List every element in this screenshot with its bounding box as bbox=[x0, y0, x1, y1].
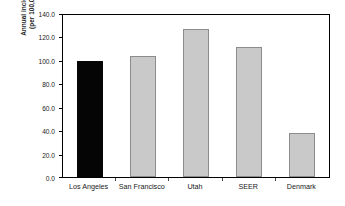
y-axis-tick-label: 60.0 bbox=[22, 104, 55, 111]
bar-chart-figure: Annual incidence (per 100,000) 0.020.040… bbox=[0, 0, 345, 206]
x-axis-tick-mark bbox=[168, 178, 169, 181]
bar-los-angeles[interactable] bbox=[77, 61, 103, 177]
y-axis-tick-labels: 0.020.040.060.080.0100.0120.0140.0 bbox=[22, 14, 55, 178]
bar-denmark[interactable] bbox=[289, 133, 315, 177]
y-axis-tick-label: 20.0 bbox=[22, 151, 55, 158]
x-axis-tick-label-san-francisco: San Francisco bbox=[119, 182, 165, 191]
y-axis-tick-label: 100.0 bbox=[22, 57, 55, 64]
x-axis-tick-label-seer: SEER bbox=[238, 182, 258, 191]
y-axis-tick-label: 80.0 bbox=[22, 81, 55, 88]
x-axis-tick-labels: Los AngelesSan FranciscoUtahSEERDenmark bbox=[62, 182, 330, 196]
x-axis-tick-mark bbox=[115, 178, 116, 181]
bar-slot bbox=[116, 15, 169, 177]
bar-slot bbox=[223, 15, 276, 177]
bars-layer bbox=[63, 15, 329, 177]
bar-seer[interactable] bbox=[236, 47, 262, 177]
x-axis-tick-mark bbox=[222, 178, 223, 181]
x-axis-tick-label-los-angeles: Los Angeles bbox=[69, 182, 108, 191]
y-axis-tick-label: 40.0 bbox=[22, 128, 55, 135]
bar-slot bbox=[276, 15, 329, 177]
x-axis-tick-label-denmark: Denmark bbox=[287, 182, 316, 191]
y-axis-tick-label: 140.0 bbox=[22, 11, 55, 18]
x-axis-tick-marks bbox=[62, 178, 330, 181]
bar-san-francisco[interactable] bbox=[130, 56, 156, 178]
bar-slot bbox=[63, 15, 116, 177]
y-axis-tick-label: 0.0 bbox=[22, 175, 55, 182]
bar-slot bbox=[169, 15, 222, 177]
y-axis-tick-label: 120.0 bbox=[22, 34, 55, 41]
bar-utah[interactable] bbox=[183, 29, 209, 177]
x-axis-tick-label-utah: Utah bbox=[187, 182, 202, 191]
x-axis-tick-mark bbox=[275, 178, 276, 181]
